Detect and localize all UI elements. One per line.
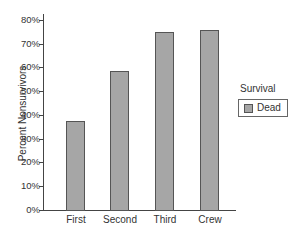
y-tick <box>39 115 44 116</box>
y-tick <box>39 20 44 21</box>
y-tick-labels: 0% 10% 20% 30% 40% 50% 60% 70% 80% <box>0 0 40 242</box>
y-tick-label: 20% <box>21 156 40 167</box>
y-tick-label: 60% <box>21 61 40 72</box>
y-tick-label: 0% <box>26 204 40 215</box>
bar-third <box>155 32 174 211</box>
legend-title: Survival <box>240 83 290 94</box>
y-tick-label: 40% <box>21 109 40 120</box>
y-tick <box>39 91 44 92</box>
y-tick <box>39 44 44 45</box>
y-tick-label: 70% <box>21 38 40 49</box>
y-tick-label: 30% <box>21 133 40 144</box>
y-tick <box>39 139 44 140</box>
y-tick-label: 80% <box>21 14 40 25</box>
y-tick <box>39 186 44 187</box>
x-tick-label: Second <box>95 214 145 225</box>
bar-first <box>66 121 85 211</box>
y-tick-label: 50% <box>21 85 40 96</box>
x-tick-label: Third <box>140 214 190 225</box>
x-tick-label: First <box>51 214 101 225</box>
bar-crew <box>200 30 219 212</box>
bar-chart: Percent Nonsurvivors 0% 10% 20% 30% 40% … <box>0 0 291 242</box>
legend-label-dead: Dead <box>257 102 281 113</box>
x-tick-label: Crew <box>185 214 235 225</box>
bar-second <box>110 71 129 211</box>
legend: Dead <box>238 99 288 117</box>
y-tick <box>39 67 44 68</box>
y-tick-label: 10% <box>21 180 40 191</box>
y-tick <box>39 162 44 163</box>
legend-swatch-dead <box>244 104 253 113</box>
y-tick <box>39 210 44 211</box>
